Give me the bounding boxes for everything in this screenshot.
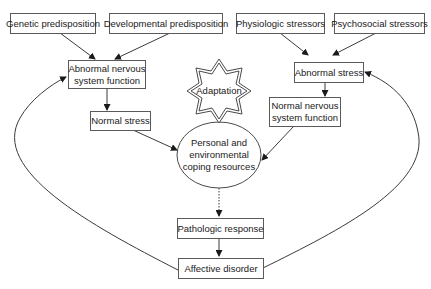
genetic-predisposition-label: Genetic predisposition [6,18,100,30]
edge-physiologic-to-abnormal-stress [280,33,308,55]
coping-line2: environmental [189,149,249,161]
coping-line1: Personal and [191,137,247,149]
affective-disorder-box: Affective disorder [178,258,264,279]
physiologic-stressors-box: Physiologic stressors [236,13,325,34]
normal-stress-label: Normal stress [91,115,150,127]
edge-genetic-to-abnormal-nervous [60,33,95,59]
edge-normal-stress-to-coping [133,130,177,150]
psychosocial-stressors-box: Psychosocial stressors [334,13,425,34]
edge-developmental-to-abnormal-nervous [115,33,170,59]
abnormal-nervous-line2: system function [74,75,140,87]
coping-resources-label: Personal and environmental coping resour… [177,136,261,174]
normal-nervous-line2: system function [272,112,338,124]
abnormal-stress-label: Abnormal stress [295,67,364,79]
abnormal-stress-box: Abnormal stress [294,62,364,83]
adaptation-label-wrap: Adaptation [189,84,249,98]
pathologic-response-box: Pathologic response [177,218,264,239]
normal-nervous-system-function-box: Normal nervous system function [269,97,341,127]
coping-line3: coping resources [183,161,255,173]
abnormal-nervous-line1: Abnormal nervous [68,63,145,75]
adaptation-label: Adaptation [196,85,241,97]
physiologic-stressors-label: Physiologic stressors [236,18,325,30]
affective-disorder-label: Affective disorder [184,263,257,275]
normal-stress-box: Normal stress [90,111,151,131]
psychosocial-stressors-label: Psychosocial stressors [331,18,428,30]
abnormal-nervous-system-function-box: Abnormal nervous system function [68,60,146,89]
genetic-predisposition-box: Genetic predisposition [10,13,96,34]
pathologic-response-label: Pathologic response [177,223,263,235]
developmental-predisposition-label: Developmental predisposition [104,18,229,30]
edge-affective-to-abnormal-nervous-curve [15,77,178,270]
edge-normal-nervous-to-coping [262,126,294,160]
developmental-predisposition-box: Developmental predisposition [109,13,223,34]
edge-psychosocial-to-abnormal-stress [333,33,376,55]
normal-nervous-line1: Normal nervous [271,100,338,112]
